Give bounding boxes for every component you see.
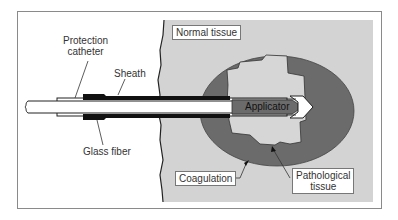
label-pathological-tissue: Pathological tissue [292, 168, 354, 194]
label-pathological-tissue-line1: Pathological [296, 170, 350, 181]
label-glass-fiber: Glass fiber [83, 146, 131, 157]
label-coagulation: Coagulation [175, 171, 236, 186]
label-protection-catheter: Protection catheter [63, 35, 108, 57]
label-sheath: Sheath [114, 68, 146, 79]
label-pathological-tissue-line2: tissue [296, 181, 350, 192]
label-normal-tissue: Normal tissue [172, 25, 241, 40]
label-protection-catheter-line1: Protection [63, 35, 108, 46]
label-applicator: Applicator [245, 101, 289, 112]
glass-fiber [25, 101, 235, 113]
diagram: Protection catheter Sheath Glass fiber N… [0, 0, 398, 220]
label-protection-catheter-line2: catheter [63, 46, 108, 57]
